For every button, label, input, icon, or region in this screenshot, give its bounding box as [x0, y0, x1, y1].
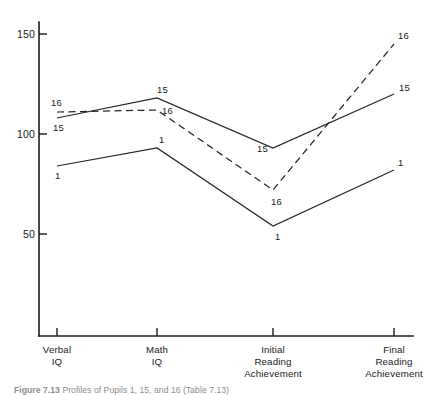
figure-container: 150 100 50 Verbal IQ Math IQ Initial Rea… — [0, 0, 429, 395]
point-label-series-16-initial-reading-achievement: 16 — [271, 196, 282, 207]
x-label-initial-line2: Reading — [254, 356, 291, 367]
x-label-math-line1: Math — [146, 344, 168, 355]
x-label-final-line1: Final — [383, 344, 405, 355]
y-axis-ticks — [39, 34, 47, 234]
x-label-verbal-line2: IQ — [52, 356, 63, 367]
point-label-series-16-verbal-iq: 16 — [51, 97, 62, 108]
series-line-pupil-15 — [57, 94, 394, 148]
series-line-pupil-1 — [57, 148, 394, 226]
point-label-series-1-math-iq: 1 — [159, 134, 164, 145]
x-label-final-line3: Achievement — [365, 368, 423, 379]
line-chart: 150 100 50 Verbal IQ Math IQ Initial Rea… — [0, 0, 429, 395]
point-label-series-1-final-reading-achievement: 1 — [398, 157, 403, 168]
x-label-final-line2: Reading — [375, 356, 412, 367]
series-point-labels: 11111515151516161616 — [51, 30, 410, 242]
y-axis-tick-labels: 150 100 50 — [17, 28, 35, 240]
series-lines — [57, 44, 394, 226]
point-label-series-15-verbal-iq: 15 — [53, 122, 64, 133]
x-label-initial-line1: Initial — [261, 344, 285, 355]
y-tick-label-150: 150 — [17, 28, 35, 40]
x-label-initial-line3: Achievement — [244, 368, 302, 379]
x-label-verbal-line1: Verbal — [43, 344, 71, 355]
point-label-series-1-initial-reading-achievement: 1 — [275, 231, 280, 242]
point-label-series-15-initial-reading-achievement: 15 — [257, 143, 268, 154]
point-label-series-15-math-iq: 15 — [157, 84, 168, 95]
point-label-series-1-verbal-iq: 1 — [55, 170, 60, 181]
y-tick-label-100: 100 — [17, 128, 35, 140]
x-label-math-line2: IQ — [152, 356, 163, 367]
caption-text: Profiles of Pupils 1, 15, and 16 (Table … — [62, 385, 229, 395]
caption-number: 7.13 — [43, 385, 60, 395]
point-label-series-15-final-reading-achievement: 15 — [399, 82, 410, 93]
x-axis-category-labels: Verbal IQ Math IQ Initial Reading Achiev… — [43, 344, 423, 379]
x-axis-ticks — [57, 328, 394, 336]
figure-caption: Figure 7.13 Profiles of Pupils 1, 15, an… — [14, 385, 414, 395]
point-label-series-16-final-reading-achievement: 16 — [398, 30, 409, 41]
point-label-series-16-math-iq: 16 — [162, 105, 173, 116]
caption-prefix: Figure — [14, 385, 41, 395]
y-tick-label-50: 50 — [23, 228, 35, 240]
